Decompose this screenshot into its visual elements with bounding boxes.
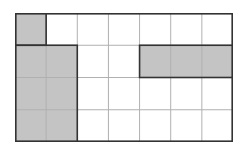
grid-svg bbox=[15, 13, 233, 142]
shaded-region bbox=[15, 13, 46, 45]
shaded-grid-diagram bbox=[15, 13, 233, 142]
shaded-region bbox=[140, 45, 233, 77]
